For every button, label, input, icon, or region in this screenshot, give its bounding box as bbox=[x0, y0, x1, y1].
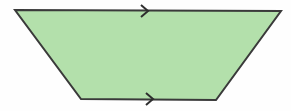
trapezoid-diagram-svg bbox=[0, 0, 291, 111]
diagram-canvas bbox=[0, 0, 291, 111]
